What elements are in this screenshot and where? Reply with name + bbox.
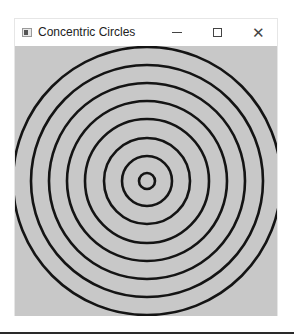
window-app-icon[interactable]: [22, 28, 32, 37]
circle-1: [139, 173, 155, 189]
maximize-button[interactable]: [197, 19, 237, 46]
window-title: Concentric Circles: [38, 25, 135, 39]
circle-3: [104, 138, 190, 224]
title-bar[interactable]: Concentric Circles ✕: [15, 19, 277, 46]
maximize-icon: [213, 28, 222, 37]
close-button[interactable]: ✕: [238, 19, 278, 46]
drawing-canvas: [15, 46, 277, 316]
close-icon: ✕: [252, 25, 265, 40]
minimize-button[interactable]: [157, 19, 197, 46]
minimize-icon: [172, 32, 182, 33]
circle-6: [49, 83, 245, 279]
app-window: Concentric Circles ✕: [14, 18, 278, 316]
concentric-circles-drawing: [15, 46, 277, 316]
taskbar-edge: [0, 332, 294, 334]
circle-2: [122, 156, 172, 206]
circle-5: [67, 101, 227, 261]
circle-8: [15, 47, 277, 315]
